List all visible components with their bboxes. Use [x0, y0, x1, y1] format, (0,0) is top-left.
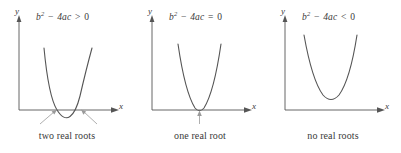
- discriminant-value: 0: [217, 12, 222, 22]
- x-axis-3: [285, 107, 385, 113]
- discriminant-figure: b2 − 4ac > 0 y x two real roots: [0, 0, 401, 153]
- y-axis-2: [150, 15, 155, 110]
- discriminant-expression-1: b2 − 4ac > 0: [36, 10, 89, 22]
- discriminant-relation: =: [207, 12, 215, 22]
- panel-negative-discriminant: b2 − 4ac < 0 y x no real roots: [266, 0, 400, 153]
- x-axis-label-2: x: [252, 101, 256, 111]
- discriminant-value: 0: [84, 12, 89, 22]
- caption-1: two real roots: [0, 130, 134, 141]
- y-axis-label-1: y: [15, 6, 19, 16]
- discriminant-term: 4ac: [57, 12, 71, 22]
- y-axis-1: [17, 15, 22, 110]
- parabola-curve-1: [44, 48, 92, 118]
- x-axis-label-3: x: [385, 101, 389, 111]
- root-pointer-right-1: [81, 110, 97, 125]
- discriminant-exponent: 2: [307, 10, 310, 17]
- discriminant-exponent: 2: [41, 10, 44, 17]
- caption-2: one real root: [133, 130, 267, 141]
- y-axis-label-2: y: [148, 6, 152, 16]
- discriminant-term: 4ac: [323, 12, 337, 22]
- x-axis-1: [19, 107, 119, 113]
- root-pointer-2: [197, 111, 202, 125]
- discriminant-expression-2: b2 − 4ac = 0: [169, 10, 222, 22]
- x-axis-label-1: x: [119, 101, 123, 111]
- caption-3: no real roots: [266, 130, 400, 141]
- discriminant-exponent: 2: [174, 10, 177, 17]
- parabola-curve-2: [178, 44, 221, 111]
- panel-positive-discriminant: b2 − 4ac > 0 y x two real roots: [0, 0, 134, 153]
- discriminant-minus: −: [313, 12, 321, 22]
- y-axis-label-3: y: [281, 6, 285, 16]
- discriminant-relation: >: [74, 12, 82, 22]
- discriminant-value: 0: [350, 12, 355, 22]
- y-axis-3: [283, 15, 288, 110]
- discriminant-term: 4ac: [190, 12, 204, 22]
- discriminant-expression-3: b2 − 4ac < 0: [302, 10, 355, 22]
- panel-zero-discriminant: b2 − 4ac = 0 y x one real root: [133, 0, 267, 153]
- root-pointer-left-1: [40, 110, 57, 125]
- parabola-curve-3: [304, 35, 357, 100]
- discriminant-minus: −: [180, 12, 188, 22]
- discriminant-minus: −: [47, 12, 55, 22]
- discriminant-relation: <: [340, 12, 348, 22]
